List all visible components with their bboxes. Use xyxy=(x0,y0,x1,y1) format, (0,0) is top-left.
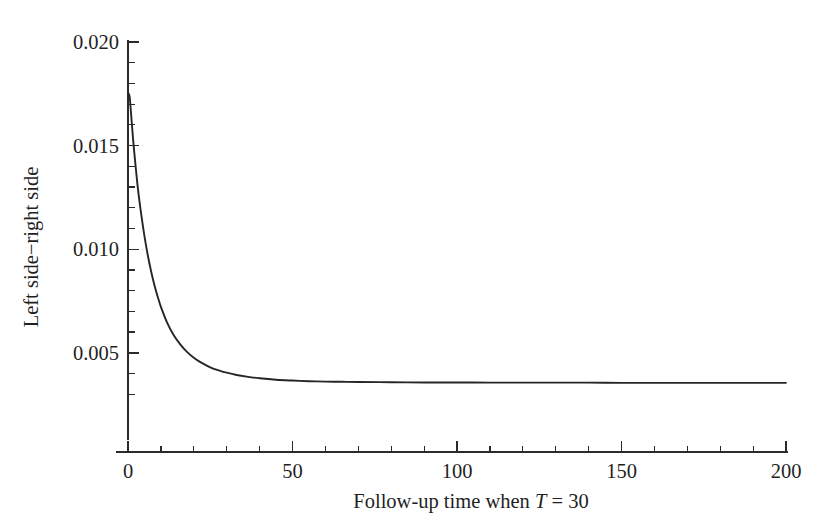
axes xyxy=(116,40,788,452)
x-axis-title: Follow-up time when T = 30 xyxy=(353,490,588,513)
x-tick-label: 50 xyxy=(282,460,303,482)
y-tick-label: 0.010 xyxy=(73,238,119,260)
y-tick-label: 0.015 xyxy=(73,135,119,157)
x-tick-label: 0 xyxy=(123,460,133,482)
y-tick-label: 0.020 xyxy=(73,31,119,53)
line-chart-canvas: 0.0050.0100.0150.020050100150200 Follow-… xyxy=(0,0,817,530)
axis-tick-labels: 0.0050.0100.0150.020050100150200 xyxy=(73,31,802,482)
x-tick-label: 150 xyxy=(606,460,637,482)
y-axis-title: Left side−right side xyxy=(20,167,43,328)
x-tick-label: 100 xyxy=(442,460,473,482)
data-series-group xyxy=(128,93,786,383)
axis-ticks xyxy=(128,42,786,452)
y-tick-label: 0.005 xyxy=(73,342,119,364)
x-tick-label: 200 xyxy=(771,460,802,482)
chart-figure: 0.0050.0100.0150.020050100150200 Follow-… xyxy=(0,0,817,530)
data-curve-line xyxy=(128,93,786,383)
axis-titles: Follow-up time when T = 30Left side−righ… xyxy=(20,167,589,513)
